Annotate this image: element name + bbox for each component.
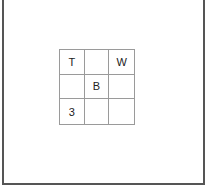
letter-grid: T W B 3 — [59, 49, 135, 125]
grid-cell-r3-c2 — [85, 99, 110, 124]
grid-cell-r3-c3 — [109, 99, 134, 124]
grid-cell-r1-c3: W — [109, 50, 134, 75]
grid-cell-r2-c3 — [109, 75, 134, 100]
grid-cell-r2-c1 — [60, 75, 85, 100]
grid-cell-r1-c2 — [85, 50, 110, 75]
grid-cell-r2-c2: B — [85, 75, 110, 100]
grid-cell-r3-c1: 3 — [60, 99, 85, 124]
grid-cell-r1-c1: T — [60, 50, 85, 75]
